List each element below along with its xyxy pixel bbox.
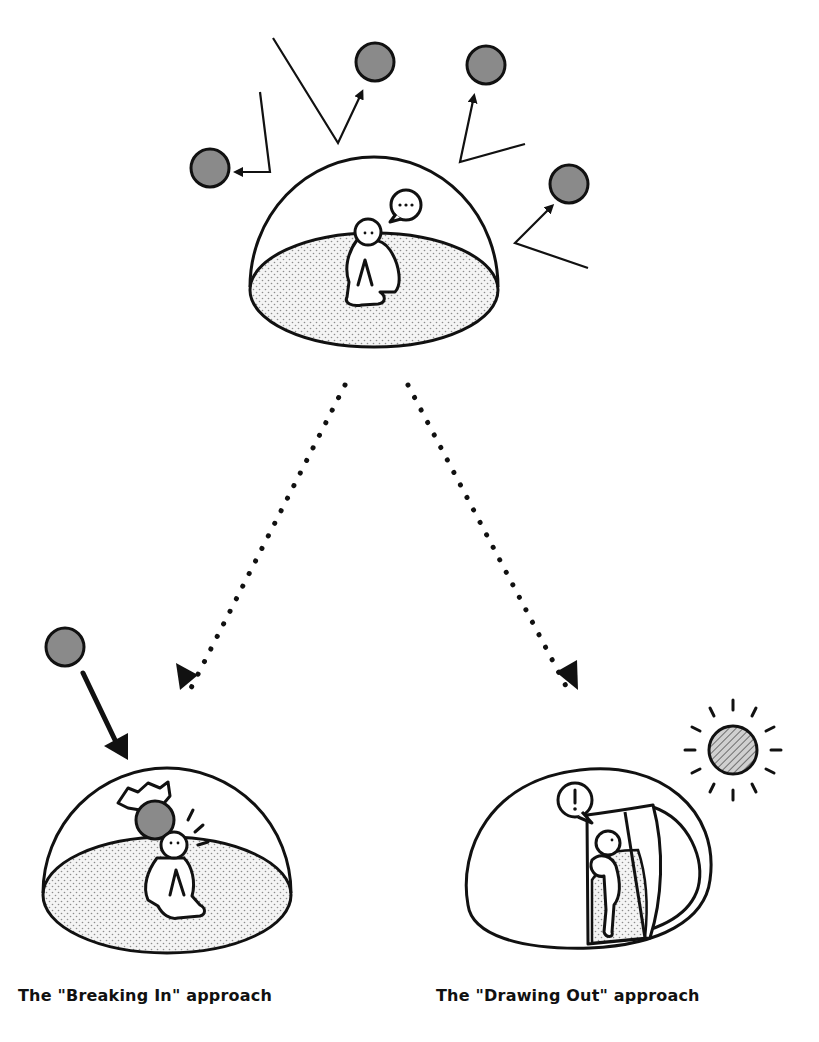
bounce-line-2 bbox=[273, 38, 362, 143]
ball-icon bbox=[550, 165, 588, 203]
dotted-arrow-right bbox=[408, 385, 568, 690]
drawing-out-scene bbox=[466, 700, 781, 948]
top-scene bbox=[191, 38, 588, 347]
breaking-in-scene bbox=[43, 628, 291, 953]
diagram-canvas bbox=[0, 0, 819, 1042]
dotted-arrow-left bbox=[190, 385, 345, 690]
ball-icon bbox=[356, 43, 394, 81]
balls bbox=[191, 43, 588, 203]
ball-icon bbox=[191, 149, 229, 187]
dotted-connectors bbox=[176, 385, 578, 690]
bounce-line-1 bbox=[236, 92, 270, 172]
bounce-trajectories bbox=[236, 38, 588, 268]
bounce-line-3 bbox=[460, 96, 525, 162]
sitting-person-icon bbox=[346, 219, 399, 306]
incoming-ball-arrow bbox=[83, 673, 115, 740]
incoming-ball-icon bbox=[46, 628, 84, 666]
drawing-out-caption: The "Drawing Out" approach bbox=[436, 986, 700, 1005]
breaking-in-caption: The "Breaking In" approach bbox=[18, 986, 272, 1005]
arrowhead-left bbox=[176, 663, 198, 690]
bounce-line-4 bbox=[515, 206, 588, 268]
ball-icon bbox=[467, 46, 505, 84]
sun-icon bbox=[685, 700, 781, 800]
speech-bubble-ellipsis bbox=[390, 190, 421, 222]
